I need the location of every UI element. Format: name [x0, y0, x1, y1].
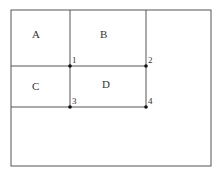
region-label-c: C [32, 80, 39, 92]
point-label-1: 1 [72, 55, 77, 65]
point-label-4: 4 [148, 96, 153, 106]
grid-diagram: A B C D 1 2 3 4 [0, 0, 221, 173]
point-label-2: 2 [148, 55, 153, 65]
outer-border [11, 10, 211, 166]
point-label-3: 3 [72, 96, 77, 106]
region-label-b: B [100, 28, 107, 40]
region-label-d: D [102, 78, 110, 90]
region-label-a: A [32, 28, 40, 40]
